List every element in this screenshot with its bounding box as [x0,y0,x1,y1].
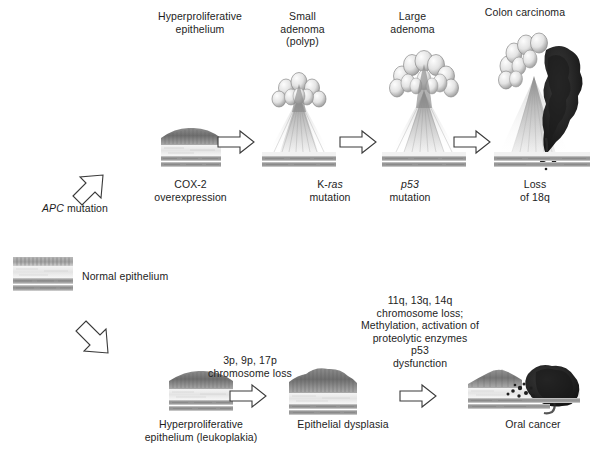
tissue-colon-carcinoma [490,28,598,172]
tissue-small-adenoma [258,66,340,170]
arrow-large-adenoma-to-carcinoma [452,128,492,156]
transition-label-kras: K-rasmutation [290,178,370,203]
stage-label-small-adenoma: Small adenoma (polyp) [250,10,355,48]
stage-label-hyperproliferative-epithelium: Hyperproliferative epithelium [140,10,260,35]
stage-label-colon-carcinoma: Colon carcinoma [455,6,595,19]
stage-label-oral-cancer: Oral cancer [478,418,588,431]
arrow-leukoplakia-to-dysplasia [228,382,268,410]
arrow-dysplasia-to-oral-cancer [398,382,438,410]
arrow-normal-to-hyperproliferative [70,318,116,366]
arrow-hyperproliferative-to-small-adenoma [216,128,256,156]
tissue-epithelial-dysplasia [288,362,358,416]
transition-label-loss-18q: Loss of 18q [490,178,580,203]
arrow-small-to-large-adenoma [338,128,378,156]
transition-label-apc-mutation: APC mutation [20,202,130,215]
transition-label-cox2: COX-2 overexpression [133,178,248,203]
tissue-oral-cancer [466,358,584,416]
transition-label-p53: p53mutation [370,178,450,203]
stage-label-normal-epithelium: Normal epithelium [82,270,202,283]
stage-label-epithelial-dysplasia: Epithelial dysplasia [273,418,413,431]
cancer-progression-figure: Hyperproliferative epithelium Small aden… [0,0,601,456]
tissue-normal-epithelium [12,255,74,299]
stage-label-hyperproliferative-leukoplakia: Hyperproliferative epithelium (leukoplak… [121,418,281,443]
tissue-hyperproliferative-epithelium [160,120,222,170]
stage-label-large-adenoma: Large adenoma [360,10,465,35]
